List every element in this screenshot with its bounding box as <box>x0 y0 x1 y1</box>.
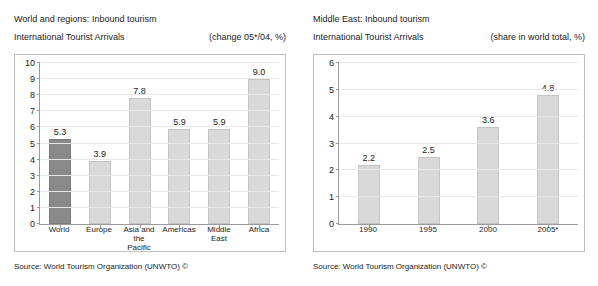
gridline-left <box>40 175 279 176</box>
bar-group-right: 2.22.53.64.8 <box>339 63 578 224</box>
chart-panel-world-and-regions: World and regions: Inbound tourism Inter… <box>0 0 299 286</box>
x-axis-tick-label-line: 2000 <box>458 225 518 234</box>
x-axis-tick-label: Asia and thePacific <box>119 225 159 245</box>
gridline-right <box>339 196 578 197</box>
bar-world[interactable]: 5.3 <box>49 139 71 224</box>
chart-title-left: World and regions: Inbound tourism <box>14 14 286 25</box>
x-axis-tick-label-line: 2005* <box>518 225 578 234</box>
y-tick-mark-left <box>37 191 40 192</box>
x-axis-tick-label: 2005* <box>518 225 578 245</box>
source-note-left: Source: World Tourism Organization (UNWT… <box>14 262 188 271</box>
gridline-left <box>40 78 279 79</box>
x-axis-tick-label: Americas <box>159 225 199 245</box>
y-tick-mark-left <box>37 126 40 127</box>
y-axis-tick-label: 2 <box>30 187 35 197</box>
bar-asia-and-the-pacific[interactable]: 7.8 <box>129 98 151 224</box>
x-axis-tick-label: World <box>39 225 79 245</box>
plot-area-left: 5.33.97.85.95.99.0 012345678910 <box>39 63 279 225</box>
bar-1990[interactable]: 2.2 <box>358 165 380 224</box>
y-tick-mark-left <box>37 207 40 208</box>
y-tick-mark-left <box>37 143 40 144</box>
x-axis-tick-label-line: World <box>39 225 79 234</box>
bar-europe[interactable]: 3.9 <box>89 161 111 224</box>
y-axis-tick-label: 5 <box>30 139 35 149</box>
gridline-left <box>40 159 279 160</box>
bar-slot: 9.0 <box>239 63 279 224</box>
gridline-left <box>40 207 279 208</box>
bar-slot: 4.8 <box>518 63 578 224</box>
bar-slot: 7.8 <box>120 63 160 224</box>
x-axis-tick-label-line: 1990 <box>338 225 398 234</box>
y-tick-mark-left <box>37 223 40 224</box>
y-tick-mark-right <box>336 143 339 144</box>
y-tick-mark-right <box>336 62 339 63</box>
y-tick-mark-right <box>336 116 339 117</box>
chart-subtitle-row-left: International Tourist Arrivals (change 0… <box>14 32 286 43</box>
gridline-left <box>40 191 279 192</box>
y-axis-tick-label: 9 <box>30 74 35 84</box>
y-axis-tick-label: 0 <box>329 219 334 229</box>
y-axis-tick-label: 2 <box>329 165 334 175</box>
x-axis-tick-label-line: 1995 <box>398 225 458 234</box>
gridline-left <box>40 110 279 111</box>
source-note-right: Source: World Tourism Organization (UNWT… <box>313 262 487 271</box>
gridline-left <box>40 62 279 63</box>
x-axis-tick-label: Africa <box>239 225 279 245</box>
bar-1995[interactable]: 2.5 <box>418 157 440 224</box>
chart-frame-left: 5.33.97.85.95.99.0 012345678910 WorldEur… <box>14 54 286 252</box>
bar-slot: 2.5 <box>399 63 459 224</box>
bar-slot: 2.2 <box>339 63 399 224</box>
y-axis-tick-label: 6 <box>30 122 35 132</box>
y-tick-mark-right <box>336 89 339 90</box>
x-axis-tick-label: 2000 <box>458 225 518 245</box>
x-axis-tick-label: 1990 <box>338 225 398 245</box>
x-axis-tick-label: Middle East <box>199 225 239 245</box>
x-axis-tick-label-line: Africa <box>239 225 279 234</box>
y-axis-tick-label: 1 <box>30 203 35 213</box>
bar-value-label: 9.0 <box>253 67 266 77</box>
y-axis-tick-label: 0 <box>30 219 35 229</box>
bar-value-label: 3.6 <box>482 115 495 125</box>
y-axis-tick-label: 7 <box>30 106 35 116</box>
y-axis-tick-label: 10 <box>25 58 35 68</box>
chart-subtitle-right: International Tourist Arrivals <box>313 32 423 43</box>
y-axis-tick-label: 4 <box>329 112 334 122</box>
gridline-right <box>339 116 578 117</box>
y-axis-tick-label: 6 <box>329 58 334 68</box>
x-axis-labels-right: 1990199520002005* <box>338 225 578 245</box>
y-axis-tick-label: 8 <box>30 90 35 100</box>
chart-subtitle-row-right: International Tourist Arrivals (share in… <box>313 32 585 43</box>
y-tick-mark-left <box>37 110 40 111</box>
bar-value-label: 2.5 <box>422 145 435 155</box>
x-axis-tick-label: Europe <box>79 225 119 245</box>
chart-frame-right: 2.22.53.64.8 0123456 1990199520002005* <box>313 54 585 252</box>
gridline-right <box>339 62 578 63</box>
chart-unit-note-right: (share in world total, %) <box>490 32 585 43</box>
chart-panel-middle-east: Middle East: Inbound tourism Internation… <box>299 0 598 286</box>
gridline-right <box>339 169 578 170</box>
bar-slot: 5.9 <box>199 63 239 224</box>
y-tick-mark-left <box>37 175 40 176</box>
y-axis-tick-label: 4 <box>30 155 35 165</box>
y-axis-tick-label: 1 <box>329 192 334 202</box>
y-tick-mark-left <box>37 78 40 79</box>
bar-slot: 5.3 <box>40 63 80 224</box>
y-tick-mark-left <box>37 62 40 63</box>
x-axis-tick-label: 1995 <box>398 225 458 245</box>
x-axis-tick-label-line: Pacific <box>119 243 159 252</box>
bar-slot: 3.6 <box>459 63 519 224</box>
x-axis-tick-label-line: Europe <box>79 225 119 234</box>
y-tick-mark-right <box>336 169 339 170</box>
gridline-right <box>339 143 578 144</box>
bar-slot: 3.9 <box>80 63 120 224</box>
y-tick-mark-left <box>37 94 40 95</box>
y-tick-mark-left <box>37 159 40 160</box>
bar-2005[interactable]: 4.8 <box>537 95 559 224</box>
y-tick-mark-right <box>336 196 339 197</box>
gridline-left <box>40 143 279 144</box>
gridline-right <box>339 89 578 90</box>
y-axis-tick-label: 3 <box>329 139 334 149</box>
y-tick-mark-right <box>336 223 339 224</box>
x-axis-tick-label-line: Asia and the <box>119 225 159 243</box>
bar-africa[interactable]: 9.0 <box>248 79 270 224</box>
